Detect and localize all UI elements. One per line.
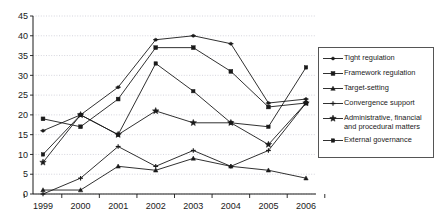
x-axis-tick-label: 2000 bbox=[71, 201, 91, 211]
legend-label: Convergence support bbox=[344, 98, 415, 107]
data-point-marker bbox=[228, 42, 233, 45]
data-point-marker bbox=[331, 139, 334, 142]
data-point-marker bbox=[116, 97, 120, 101]
x-axis-tick-label: 2005 bbox=[258, 201, 278, 211]
data-point-marker bbox=[192, 89, 195, 92]
y-axis-tick-label: 40 bbox=[18, 31, 28, 41]
data-point-marker bbox=[116, 133, 119, 136]
series-administrative-financial-and-procedural-matters bbox=[40, 100, 309, 165]
data-point-marker bbox=[154, 46, 158, 50]
data-point-marker bbox=[191, 46, 195, 50]
legend-item-external-governance: External governance bbox=[322, 135, 430, 146]
legend-label: Framework regulation bbox=[344, 68, 415, 77]
data-point-marker bbox=[331, 72, 335, 76]
data-point-marker bbox=[330, 115, 336, 121]
x-axis-tick-label: 2003 bbox=[183, 201, 203, 211]
legend-marker-dot-icon bbox=[322, 135, 344, 146]
data-point-marker bbox=[79, 113, 82, 116]
x-axis-tick-label: 1999 bbox=[33, 201, 53, 211]
data-point-marker bbox=[41, 153, 44, 156]
x-axis-tick-label: 2006 bbox=[296, 201, 316, 211]
data-point-marker bbox=[154, 62, 157, 65]
y-axis-tick-label: 25 bbox=[18, 90, 28, 100]
legend-label: Tight regulation bbox=[344, 53, 395, 62]
x-axis-tick-label: 2001 bbox=[108, 201, 128, 211]
data-point-marker bbox=[267, 105, 271, 109]
data-point-marker bbox=[41, 117, 45, 121]
data-point-marker bbox=[190, 119, 196, 125]
y-axis-tick-label: 20 bbox=[18, 110, 28, 120]
chart-legend: Tight regulation Framework regulation Ta… bbox=[318, 47, 434, 158]
data-point-marker bbox=[41, 192, 46, 196]
legend-label: Administrative, financial and procedural… bbox=[344, 113, 422, 131]
data-point-marker bbox=[267, 125, 270, 128]
series-line bbox=[43, 103, 306, 162]
data-point-marker bbox=[330, 57, 335, 60]
y-axis-tick-label: 10 bbox=[18, 150, 28, 160]
data-point-marker bbox=[191, 34, 196, 37]
legend-marker-cross-icon bbox=[322, 98, 344, 109]
data-point-marker bbox=[229, 69, 233, 73]
legend-item-framework-regulation: Framework regulation bbox=[322, 68, 430, 79]
y-axis-tick-label: 15 bbox=[18, 130, 28, 140]
line-chart-figure: 0510152025303540451999200020012002200320… bbox=[0, 0, 437, 224]
x-axis-tick-label: 2002 bbox=[146, 201, 166, 211]
data-point-marker bbox=[79, 125, 83, 129]
legend-label: Target-setting bbox=[344, 83, 389, 92]
legend-item-convergence-support: Convergence support bbox=[322, 98, 430, 109]
y-axis-tick-label: 30 bbox=[18, 71, 28, 81]
data-point-marker bbox=[266, 102, 271, 105]
legend-marker-square-icon bbox=[322, 68, 344, 79]
legend-item-administrative-financial-procedural: Administrative, financial and procedural… bbox=[322, 113, 430, 131]
data-point-marker bbox=[191, 148, 196, 152]
data-point-marker bbox=[191, 156, 195, 160]
series-tight-regulation bbox=[40, 34, 308, 132]
legend-label: External governance bbox=[344, 135, 412, 144]
data-point-marker bbox=[331, 101, 336, 105]
y-axis-tick-label: 0 bbox=[23, 189, 28, 199]
legend-marker-star-icon bbox=[322, 113, 344, 124]
y-axis-tick-label: 5 bbox=[23, 169, 28, 179]
legend-marker-triangle-icon bbox=[322, 83, 344, 94]
data-point-marker bbox=[304, 66, 307, 69]
legend-item-tight-regulation: Tight regulation bbox=[322, 53, 430, 64]
y-axis-tick-label: 45 bbox=[18, 11, 28, 21]
data-point-marker bbox=[229, 121, 232, 124]
y-axis-tick-label: 35 bbox=[18, 51, 28, 61]
data-point-marker bbox=[153, 164, 158, 168]
legend-marker-plus-dot-icon bbox=[322, 53, 344, 64]
legend-item-target-setting: Target-setting bbox=[322, 83, 430, 94]
x-axis-tick-label: 2004 bbox=[221, 201, 241, 211]
series-target-setting bbox=[41, 156, 308, 192]
data-point-marker bbox=[153, 38, 158, 41]
